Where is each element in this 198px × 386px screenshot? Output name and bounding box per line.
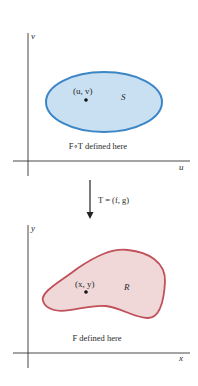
point-xy-dot (84, 290, 88, 294)
x-axis-label: x (178, 353, 183, 363)
region-s-label: S (121, 92, 126, 102)
top-caption: F∘T defined here (69, 141, 128, 151)
region-s (46, 72, 162, 132)
mapping-label: T = (f, g) (98, 195, 129, 205)
arrow-down-icon (87, 212, 94, 219)
y-axis-label: y (30, 223, 35, 233)
point-xy-label: (x, y) (75, 279, 95, 289)
mapping-arrow: T = (f, g) (87, 180, 130, 219)
change-of-variables-diagram: v u (u, v) S F∘T defined here T = (f, g)… (0, 0, 198, 386)
point-uv-dot (84, 98, 88, 102)
region-r (43, 250, 165, 318)
u-axis-label: u (179, 162, 184, 172)
v-axis-label: v (31, 31, 35, 41)
point-uv-label: (u, v) (73, 86, 93, 96)
bottom-caption: F defined here (72, 333, 121, 343)
bottom-plot: y x (x, y) R F defined here (13, 223, 190, 368)
top-plot: v u (u, v) S F∘T defined here (13, 31, 190, 176)
region-r-label: R (123, 282, 130, 292)
